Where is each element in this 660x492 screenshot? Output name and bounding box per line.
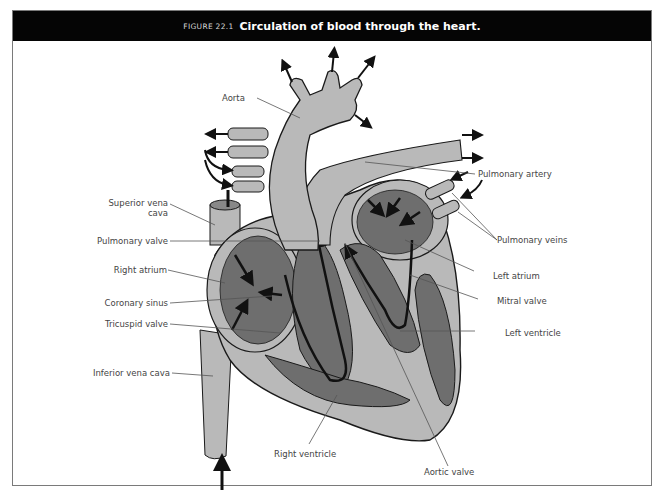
label-superior-vena-cava-line2: cava [96,208,168,218]
label-left-atrium: Left atrium [493,271,540,281]
label-aortic-valve: Aortic valve [424,467,474,477]
label-tricuspid-valve: Tricuspid valve [70,319,168,329]
label-pulmonary-artery: Pulmonary artery [478,169,552,179]
label-coronary-sinus: Coronary sinus [70,298,168,308]
heart-diagram [0,0,660,492]
label-left-ventricle: Left ventricle [505,328,561,338]
label-superior-vena-cava-line1: Superior vena [96,198,168,208]
label-right-ventricle: Right ventricle [274,449,336,459]
label-pulmonary-valve: Pulmonary valve [70,236,168,246]
label-inferior-vena-cava: Inferior vena cava [60,368,170,378]
label-aorta: Aorta [222,93,245,103]
label-mitral-valve: Mitral valve [497,296,547,306]
label-pulmonary-veins: Pulmonary veins [497,235,567,245]
label-right-atrium: Right atrium [70,265,167,275]
label-superior-vena-cava: Superior vena cava [96,198,168,218]
